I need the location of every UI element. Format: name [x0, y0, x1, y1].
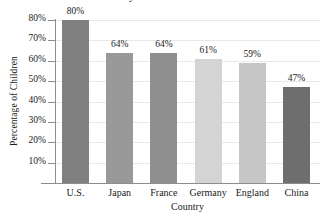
y-axis-tick-label: 50% [0, 74, 46, 84]
gridline [55, 142, 320, 143]
gridline [55, 40, 320, 41]
y-axis-tick-label: 20% [0, 135, 46, 145]
y-axis-tick [48, 163, 55, 164]
y-axis-tick-labels: 10%20%30%40%50%60%70%80% [0, 0, 46, 218]
y-axis-tick [48, 81, 55, 82]
gridline [55, 20, 320, 21]
y-axis-tick-label: 40% [0, 95, 46, 105]
y-axis-tick [48, 122, 55, 123]
gridline [55, 61, 320, 62]
bar [239, 63, 266, 183]
y-axis-tick [48, 102, 55, 103]
bar [150, 53, 177, 183]
bar-value-label: 80% [53, 6, 98, 16]
bar-value-label: 64% [97, 39, 142, 49]
y-axis-tick-label: 80% [0, 13, 46, 23]
bar [283, 87, 310, 183]
y-axis-tick-label: 30% [0, 115, 46, 125]
bar [106, 53, 133, 183]
y-axis-tick [48, 142, 55, 143]
bar-value-label: 59% [230, 49, 275, 59]
y-axis-line [55, 19, 56, 184]
chart-title: Study Time of Children [0, 0, 322, 2]
bar [62, 20, 89, 183]
bar-value-label: 61% [186, 45, 231, 55]
x-axis-category-label: China [269, 187, 322, 198]
x-axis-title: Country [55, 201, 320, 212]
y-axis-tick-label: 10% [0, 156, 46, 166]
y-axis-tick-label: 60% [0, 54, 46, 64]
bar-chart: Study Time of Children Percentage of Chi… [0, 0, 322, 218]
bar [195, 59, 222, 183]
x-axis-line [41, 183, 320, 184]
gridline [55, 122, 320, 123]
y-axis-tick [48, 20, 55, 21]
gridline [55, 102, 320, 103]
bar-value-label: 47% [274, 73, 319, 83]
bar-value-label: 64% [141, 39, 186, 49]
y-axis-tick-label: 70% [0, 33, 46, 43]
y-axis-tick [48, 61, 55, 62]
gridline [55, 163, 320, 164]
y-axis-tick [48, 40, 55, 41]
